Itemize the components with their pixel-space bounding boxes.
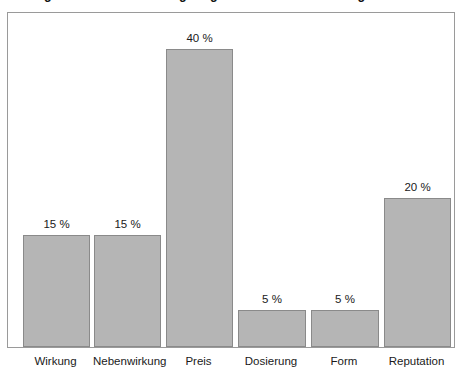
bar-value-label: 5 %: [238, 293, 306, 306]
category-label-preis: Preis: [165, 354, 232, 368]
bar-nebenwirkung: [94, 235, 161, 347]
bar-dosierung: [238, 310, 306, 347]
chart-title: Wichtigste Kriterien für eine geringe Me…: [6, 0, 365, 2]
bar-value-label: 20 %: [384, 181, 451, 194]
bar-value-label: 5 %: [311, 293, 379, 306]
category-label-wirkung: Wirkung: [22, 354, 89, 368]
chart-plot-area: 15 % 15 % 40 % 5 % 5 % 20 %: [8, 13, 454, 347]
bar-value-label: 15 %: [94, 218, 161, 231]
category-label-dosierung: Dosierung: [237, 354, 305, 368]
bar-reputation: [384, 198, 451, 347]
bar-wirkung: [23, 235, 90, 347]
bar-value-label: 15 %: [23, 218, 90, 231]
category-label-nebenwirkung: Nebenwirkung: [93, 354, 160, 368]
category-label-reputation: Reputation: [383, 354, 450, 368]
chart-plot-frame: 15 % 15 % 40 % 5 % 5 % 20 %: [7, 12, 455, 348]
bar-value-label: 40 %: [166, 32, 233, 45]
bar-form: [311, 310, 379, 347]
category-label-form: Form: [310, 354, 378, 368]
bar-preis: [166, 49, 233, 347]
